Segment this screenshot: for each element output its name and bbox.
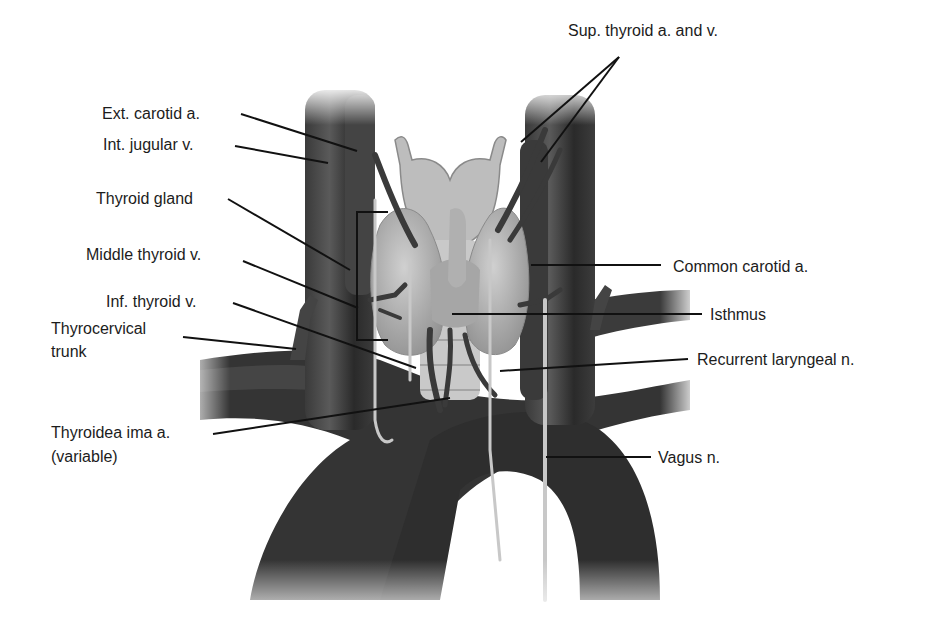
label-sup-thyroid: Sup. thyroid a. and v. <box>568 21 718 40</box>
label-thyrocervical-line2: trunk <box>51 342 87 361</box>
label-middle-thyroid-v: Middle thyroid v. <box>86 245 201 264</box>
label-isthmus: Isthmus <box>710 305 766 324</box>
label-int-jugular: Int. jugular v. <box>103 135 193 154</box>
label-ext-carotid: Ext. carotid a. <box>102 104 200 123</box>
label-thyroidea-ima-line1: Thyroidea ima a. <box>51 423 170 442</box>
label-thyroidea-ima-line2: (variable) <box>51 447 118 466</box>
label-common-carotid: Common carotid a. <box>673 257 808 276</box>
label-recurrent-laryngeal: Recurrent laryngeal n. <box>697 350 854 369</box>
left-vessel-column <box>305 90 375 430</box>
label-thyroid-gland: Thyroid gland <box>96 189 193 208</box>
label-vagus: Vagus n. <box>658 448 720 467</box>
label-inf-thyroid-v: Inf. thyroid v. <box>106 292 196 311</box>
label-thyrocervical-line1: Thyrocervical <box>51 319 146 338</box>
right-vessel-column <box>520 95 595 425</box>
anatomy-illustration <box>0 0 942 627</box>
thyroid-anatomy-diagram: Ext. carotid a. Int. jugular v. Thyroid … <box>0 0 942 627</box>
